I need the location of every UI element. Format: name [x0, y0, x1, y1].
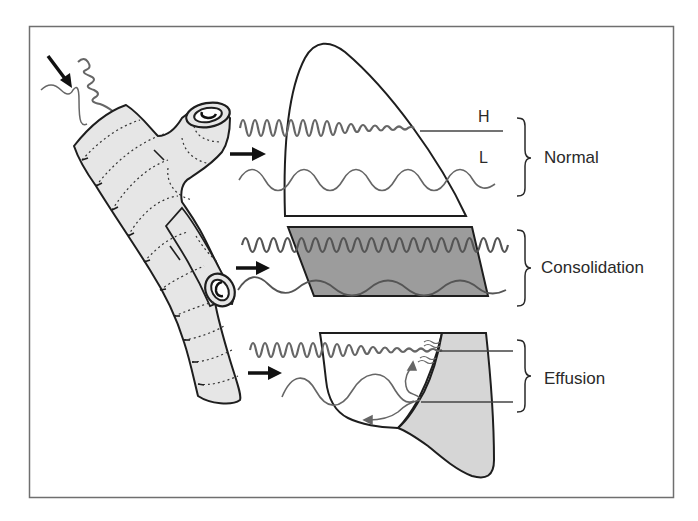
label-high-frequency: H: [478, 109, 490, 125]
label-low-frequency: L: [479, 150, 488, 166]
lung-consolidation: [288, 227, 488, 296]
label-effusion: Effusion: [544, 370, 605, 387]
label-normal: Normal: [544, 149, 599, 166]
label-consolidation: Consolidation: [541, 259, 644, 276]
figure: H L Normal Consolidation Effusion: [0, 0, 698, 521]
